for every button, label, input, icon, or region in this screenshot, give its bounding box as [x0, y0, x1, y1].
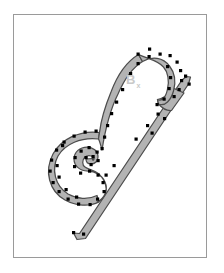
vertex-marker [50, 159, 53, 162]
vertex-marker [106, 124, 109, 127]
vertex-marker [61, 144, 64, 147]
vertex-marker [72, 231, 75, 234]
vertex-marker [88, 170, 91, 173]
vertex-marker [95, 130, 98, 133]
vertex-marker [74, 156, 77, 159]
vertex-marker [97, 174, 100, 177]
vertex-marker [105, 174, 108, 177]
vertex-marker [101, 147, 104, 150]
band-segment-arch-crown [139, 55, 175, 105]
vertex-marker [121, 88, 124, 91]
vertex-marker [103, 136, 106, 139]
vertex-marker [80, 150, 83, 153]
vertex-marker [168, 87, 171, 90]
vertex-marker [58, 176, 61, 179]
vertex-marker [110, 112, 113, 115]
vertex-marker [148, 55, 151, 58]
vertex-marker [169, 76, 172, 79]
vertex-marker [178, 88, 181, 91]
vertex-marker [67, 198, 70, 201]
vertex-marker [89, 203, 92, 206]
vertex-marker [52, 181, 55, 184]
vertex-marker [180, 79, 183, 82]
vertex-marker [188, 83, 191, 86]
vertex-marker [75, 196, 78, 199]
vertex-marker [113, 164, 116, 167]
vertex-marker [96, 198, 99, 201]
band-segment-outer-spiral [49, 132, 100, 205]
vertex-marker [90, 163, 93, 166]
vertex-marker [184, 75, 187, 78]
figure-root: Bx [0, 0, 224, 273]
vertex-marker [92, 155, 95, 158]
vertex-marker [173, 95, 176, 98]
vertex-marker [103, 190, 106, 193]
vertex-marker [151, 132, 154, 135]
vertex-marker [159, 53, 162, 56]
region-label-text: B [126, 72, 135, 87]
vertex-marker [176, 61, 179, 64]
vertex-marker [102, 181, 105, 184]
vertex-marker [88, 146, 91, 149]
band-curve-drawing [0, 0, 224, 273]
vertex-marker [163, 98, 166, 101]
band-segment-inner-spiral [74, 147, 106, 202]
vertex-marker [166, 65, 169, 68]
vertex-marker [137, 62, 140, 65]
vertex-marker [96, 151, 99, 154]
vertex-marker [97, 159, 100, 162]
vertex-marker [56, 164, 59, 167]
vertex-marker [77, 203, 80, 206]
vertex-marker [82, 233, 85, 236]
region-label: Bx [126, 73, 140, 89]
vertex-marker [156, 103, 159, 106]
vertex-marker [157, 113, 160, 116]
vertex-marker [63, 141, 66, 144]
vertex-marker [169, 54, 172, 57]
vertex-marker [79, 172, 82, 175]
vertex-marker [148, 48, 151, 51]
vertex-marker [115, 101, 118, 104]
vertex-marker [179, 69, 182, 72]
vertex-marker [137, 53, 140, 56]
vertex-marker [135, 138, 138, 141]
vertex-marker [73, 165, 76, 168]
region-label-subscript: x [136, 82, 140, 89]
vertex-marker [49, 170, 52, 173]
vertex-marker [65, 188, 68, 191]
vertex-marker [73, 135, 76, 138]
vertex-marker [146, 124, 149, 127]
vertex-marker [85, 156, 88, 159]
vertex-marker [163, 117, 166, 120]
vertex-marker [55, 149, 58, 152]
vertex-marker [84, 131, 87, 134]
vertex-marker [58, 190, 61, 193]
